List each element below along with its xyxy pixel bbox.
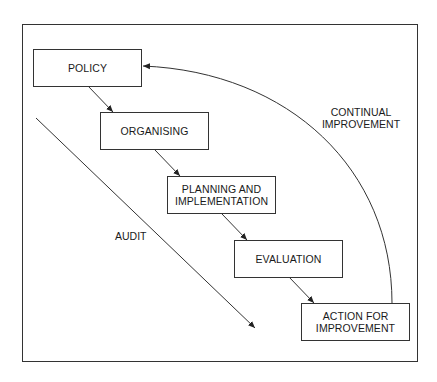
action-for-improvement-label: ACTION FOR IMPROVEMENT bbox=[316, 310, 395, 334]
evaluation-label: EVALUATION bbox=[256, 253, 322, 265]
evaluation-box: EVALUATION bbox=[234, 240, 343, 278]
policy-box: POLICY bbox=[33, 49, 142, 87]
policy-label: POLICY bbox=[68, 62, 107, 74]
planning-implementation-box: PLANNING AND IMPLEMENTATION bbox=[167, 176, 276, 214]
continual-improvement-label: CONTINUAL IMPROVEMENT bbox=[315, 106, 407, 130]
organising-box: ORGANISING bbox=[100, 112, 209, 150]
organising-label: ORGANISING bbox=[120, 125, 188, 137]
planning-implementation-label: PLANNING AND IMPLEMENTATION bbox=[175, 183, 268, 207]
audit-label: AUDIT bbox=[115, 230, 147, 242]
action-for-improvement-box: ACTION FOR IMPROVEMENT bbox=[301, 303, 410, 341]
